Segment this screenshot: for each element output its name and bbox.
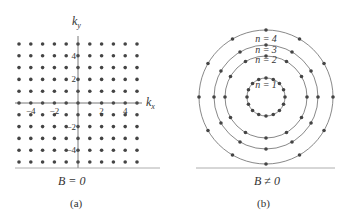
lattice-point bbox=[64, 42, 68, 46]
y-tick-label: 2 bbox=[72, 74, 77, 84]
lattice-point bbox=[135, 42, 139, 46]
lattice-point bbox=[88, 66, 92, 70]
lattice-point bbox=[29, 66, 33, 70]
lattice-point bbox=[29, 160, 33, 164]
panel-a-caption: (a) bbox=[70, 197, 82, 209]
lattice-point bbox=[112, 137, 116, 141]
ring-state-point bbox=[298, 37, 302, 41]
ring-state-point bbox=[238, 50, 242, 54]
ring-state-point bbox=[212, 95, 216, 99]
ring-state-point bbox=[322, 129, 326, 133]
lattice-point bbox=[29, 148, 33, 152]
ring-state-point bbox=[309, 69, 313, 73]
ring-state-point bbox=[264, 147, 268, 151]
landau-ring bbox=[225, 56, 307, 138]
ring-label: n = 1 bbox=[255, 79, 277, 90]
lattice-point bbox=[112, 66, 116, 70]
lattice-point bbox=[88, 42, 92, 46]
lattice-point bbox=[17, 160, 21, 164]
ring-state-point bbox=[298, 153, 302, 157]
lattice-point bbox=[17, 89, 21, 93]
lattice-point bbox=[29, 125, 33, 129]
lattice-point bbox=[17, 125, 21, 129]
lattice-point bbox=[41, 160, 45, 164]
lattice-point bbox=[53, 54, 57, 58]
ring-state-point bbox=[229, 75, 233, 79]
lattice-point bbox=[112, 148, 116, 152]
ring-state-point bbox=[285, 131, 289, 135]
lattice-point bbox=[17, 78, 21, 82]
lattice-point bbox=[53, 160, 57, 164]
lattice-point bbox=[135, 148, 139, 152]
y-tick-label: −4 bbox=[66, 145, 76, 155]
ring-label: n = 4 bbox=[255, 33, 277, 44]
lattice-point bbox=[64, 78, 68, 82]
lattice-point bbox=[41, 137, 45, 141]
ring-state-point bbox=[282, 88, 286, 92]
lattice-point bbox=[123, 89, 127, 93]
lattice-point bbox=[100, 42, 104, 46]
lattice-point bbox=[41, 54, 45, 58]
lattice-point bbox=[41, 78, 45, 82]
ring-state-point bbox=[251, 109, 255, 113]
lattice-point bbox=[88, 54, 92, 58]
ring-state-point bbox=[285, 60, 289, 64]
lattice-point bbox=[17, 66, 21, 70]
lattice-point bbox=[123, 66, 127, 70]
lattice-point bbox=[88, 160, 92, 164]
x-tick-label: 4 bbox=[123, 106, 128, 116]
lattice-point bbox=[17, 113, 21, 117]
lattice-point bbox=[135, 54, 139, 58]
lattice-point bbox=[135, 160, 139, 164]
lattice-point bbox=[53, 89, 57, 93]
lattice-point bbox=[123, 148, 127, 152]
panel-b-condition: B ≠ 0 bbox=[254, 174, 280, 189]
ring-state-point bbox=[282, 102, 286, 106]
ring-state-point bbox=[247, 102, 251, 106]
lattice-point bbox=[17, 137, 21, 141]
lattice-point bbox=[88, 78, 92, 82]
lattice-point bbox=[112, 160, 116, 164]
lattice-point bbox=[29, 78, 33, 82]
lattice-point bbox=[41, 66, 45, 70]
lattice-point bbox=[88, 125, 92, 129]
figure-canvas: −4−22442−2−4 n = 1n = 2n = 3n = 4 bbox=[0, 0, 343, 223]
lattice-point bbox=[112, 54, 116, 58]
ring-state-point bbox=[331, 95, 335, 99]
lattice-point bbox=[88, 89, 92, 93]
lattice-point bbox=[135, 66, 139, 70]
ring-state-point bbox=[206, 129, 210, 133]
ring-state-point bbox=[197, 95, 201, 99]
ring-state-point bbox=[322, 62, 326, 66]
lattice-point bbox=[64, 66, 68, 70]
lattice-point bbox=[135, 137, 139, 141]
panel-b-landau-rings: n = 1n = 2n = 3n = 4 bbox=[196, 28, 335, 168]
lattice-point bbox=[88, 148, 92, 152]
lattice-point bbox=[53, 125, 57, 129]
ring-state-point bbox=[278, 109, 282, 113]
ring-state-point bbox=[264, 114, 268, 118]
lattice-point bbox=[29, 54, 33, 58]
lattice-point bbox=[29, 42, 33, 46]
ring-state-point bbox=[264, 162, 268, 166]
lattice-point bbox=[53, 148, 57, 152]
lattice-point bbox=[112, 89, 116, 93]
lattice-point bbox=[100, 66, 104, 70]
ring-label: n = 2 bbox=[255, 54, 277, 65]
lattice-point bbox=[41, 148, 45, 152]
lattice-point bbox=[88, 137, 92, 141]
lattice-point bbox=[41, 125, 45, 129]
lattice-point bbox=[64, 160, 68, 164]
lattice-point bbox=[123, 125, 127, 129]
ky-axis-label: ky bbox=[72, 14, 81, 30]
lattice-point bbox=[135, 89, 139, 93]
x-tick-label: 2 bbox=[99, 106, 104, 116]
lattice-point bbox=[112, 113, 116, 117]
ring-state-point bbox=[247, 88, 251, 92]
lattice-point bbox=[41, 42, 45, 46]
panel-a-lattice: −4−22442−2−4 bbox=[15, 36, 160, 168]
lattice-point bbox=[100, 89, 104, 93]
x-tick-label: −2 bbox=[50, 106, 60, 116]
lattice-point bbox=[123, 78, 127, 82]
ring-state-point bbox=[219, 69, 223, 73]
